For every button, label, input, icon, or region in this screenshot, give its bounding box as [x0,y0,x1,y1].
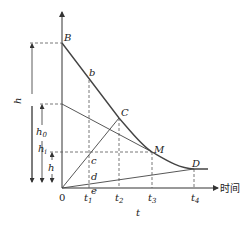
label-b: b [89,67,95,78]
tick-t2: t2 [115,192,124,205]
diagram-svg: B b C M D c d e h h0 hi h 0 t1 t2 t3 t4 … [0,0,251,225]
tick-t3: t3 [148,192,157,205]
label-D: D [191,158,200,169]
line-h0-to-M [62,104,152,152]
label-d: d [91,171,97,182]
label-h-small: h [48,162,54,173]
label-B: B [63,32,71,43]
main-curve [62,43,208,169]
origin-label: 0 [59,192,65,203]
label-M: M [153,144,165,155]
x-axis-title: 时间 [220,182,240,194]
label-c: c [91,155,97,166]
diagram-canvas: B b C M D c d e h h0 hi h 0 t1 t2 t3 t4 … [0,0,251,225]
x-variable-label: t [136,207,141,218]
tick-t4: t4 [191,192,200,205]
line-origin-to-D [62,169,194,188]
label-h-total: h [12,98,23,104]
label-e: e [91,185,97,196]
label-C: C [121,107,129,118]
